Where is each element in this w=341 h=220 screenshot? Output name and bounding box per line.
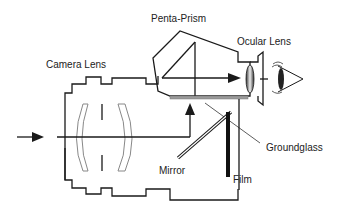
lens-barrel-outline: [65, 76, 238, 200]
label-groundglass: Groundglass: [266, 143, 323, 153]
mirror: [178, 112, 231, 158]
reflected-light-arrow: [185, 103, 195, 137]
eye-icon: [272, 62, 303, 93]
film: [226, 112, 230, 177]
incoming-light-arrow: [17, 132, 44, 142]
prism-output-arrowhead: [228, 73, 241, 83]
label-camera-lens: Camera Lens: [46, 60, 106, 70]
groundglass-pointer: [205, 103, 260, 143]
slr-camera-diagram: [0, 0, 341, 220]
label-ocular-lens: Ocular Lens: [237, 37, 291, 47]
label-film: Film: [233, 175, 252, 185]
label-mirror: Mirror: [159, 166, 185, 176]
label-penta-prism: Penta-Prism: [151, 14, 206, 24]
penta-prism: [153, 31, 250, 96]
ocular-lens: [246, 65, 254, 93]
groundglass: [170, 96, 248, 99]
